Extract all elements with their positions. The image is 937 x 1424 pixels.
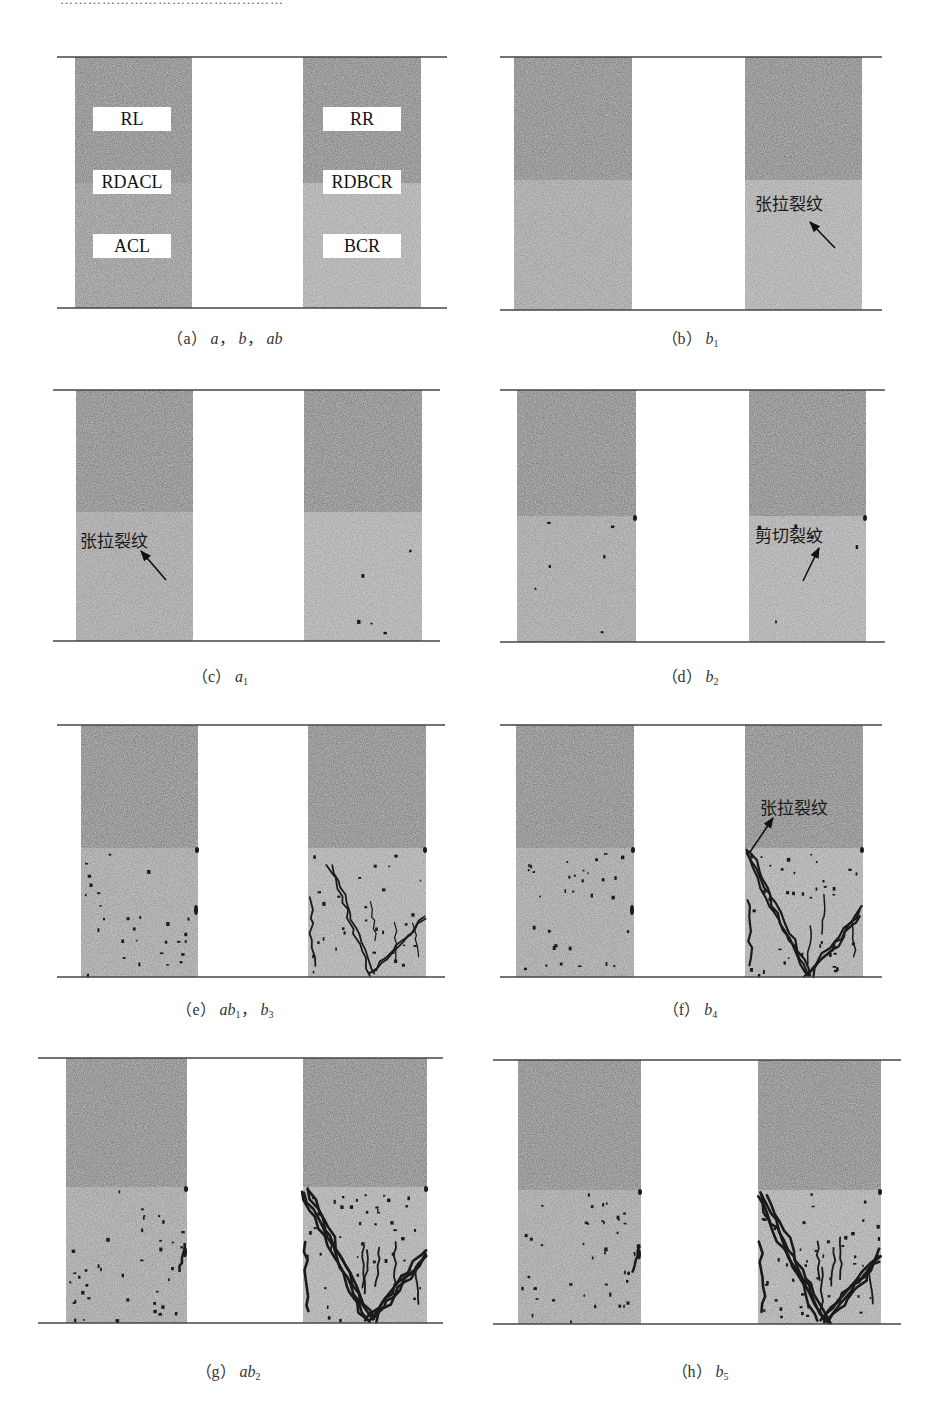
left-upper-region bbox=[518, 1060, 641, 1190]
right-upper-region bbox=[758, 1060, 881, 1190]
left-lower-region bbox=[518, 1190, 641, 1324]
specimen-diagram-h bbox=[0, 0, 937, 1424]
subfigure-caption-h: （h） b5 bbox=[600, 1358, 800, 1382]
left-specimen-column bbox=[518, 1060, 641, 1324]
